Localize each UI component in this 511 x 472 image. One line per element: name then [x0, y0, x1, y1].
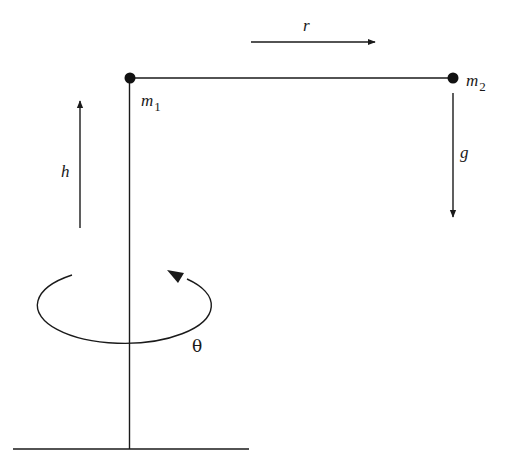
mass-2-point — [448, 73, 459, 84]
rotation-angle-label: θ — [192, 336, 202, 356]
mass-1-label: m1 — [141, 91, 161, 114]
rotation-arc — [37, 275, 211, 343]
gravity-label: g — [460, 143, 469, 162]
mass-1-point — [125, 73, 136, 84]
rotation-arrowhead-icon — [167, 270, 184, 283]
height-label: h — [61, 162, 70, 181]
radius-label: r — [303, 16, 310, 35]
mass-2-label: m2 — [466, 71, 486, 94]
rotating-arm-diagram: m1 m2 r g h θ — [0, 0, 511, 472]
